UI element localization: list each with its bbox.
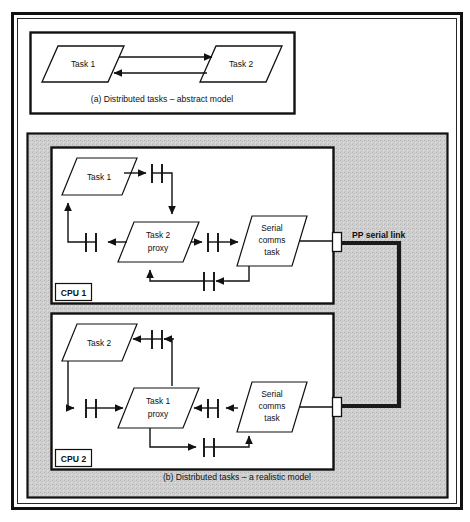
figure-canvas: Task 1 Task 2 (a) Distributed tasks – ab… xyxy=(0,0,470,522)
node-a-task1-label: Task 1 xyxy=(71,59,96,69)
node-a-task2-label: Task 2 xyxy=(229,59,254,69)
panel-a: Task 1 Task 2 (a) Distributed tasks – ab… xyxy=(31,33,295,114)
cpu2-group: Task 2 Task 1 proxy Serial comms task xyxy=(52,314,334,470)
pp-serial-link-label: PP serial link xyxy=(352,230,406,240)
node-c2-serial-label-1: Serial xyxy=(261,389,283,399)
node-c2-serial-label-3: task xyxy=(264,413,280,423)
cpu2-port-connector xyxy=(333,398,342,417)
cpu1-group: Task 1 Task 2 proxy Serial comms task xyxy=(52,148,334,304)
node-c2-serial-label-2: comms xyxy=(259,401,286,411)
node-c2-proxy-label-1: Task 1 xyxy=(146,396,171,406)
panel-b: Task 1 Task 2 proxy Serial comms task xyxy=(28,134,448,498)
node-c2-proxy-label-2: proxy xyxy=(148,409,169,419)
cpu1-port-connector xyxy=(333,233,342,252)
cpu1-tag-label: CPU 1 xyxy=(61,288,87,298)
node-c1-serial-label-3: task xyxy=(264,247,280,257)
node-c1-serial-label-2: comms xyxy=(259,235,286,245)
node-c1-task1-label: Task 1 xyxy=(87,172,112,182)
node-c1-serial-label-1: Serial xyxy=(261,223,283,233)
node-c1-proxy-label-2: proxy xyxy=(148,243,169,253)
diagram-svg: Task 1 Task 2 (a) Distributed tasks – ab… xyxy=(0,0,470,522)
node-c1-proxy-label-1: Task 2 xyxy=(146,230,171,240)
panel-b-caption: (b) Distributed tasks – a realistic mode… xyxy=(163,472,311,482)
panel-a-caption: (a) Distributed tasks – abstract model xyxy=(91,94,233,104)
cpu2-tag-label: CPU 2 xyxy=(61,454,87,464)
node-c2-task2-label: Task 2 xyxy=(87,338,112,348)
